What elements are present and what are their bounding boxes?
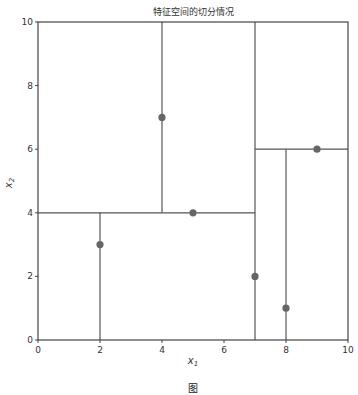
data-point [158,114,165,121]
y-tick-label: 4 [27,208,33,218]
y-tick-label: 0 [27,335,33,345]
split-lines [38,22,348,340]
data-point [251,273,258,280]
x-tick-label: 6 [221,345,227,355]
x-tick-label: 10 [342,345,354,355]
x-tick-label: 0 [35,345,41,355]
data-point [313,146,320,153]
x-tick-label: 8 [283,345,289,355]
axes [38,22,348,340]
tick-labels: 02468100246810 [22,17,354,355]
figure-caption: 图 [0,380,358,395]
data-point [189,209,196,216]
plot-frame [38,22,348,340]
y-tick-label: 6 [27,144,33,154]
y-tick-label: 8 [27,81,33,91]
y-tick-label: 2 [27,271,33,281]
x-axis-label: x1 [187,355,198,368]
data-point [282,305,289,312]
y-axis-label: x2 [3,177,16,189]
y-tick-label: 10 [22,17,34,27]
x-tick-label: 2 [97,345,103,355]
x-tick-label: 4 [159,345,165,355]
data-point [96,241,103,248]
